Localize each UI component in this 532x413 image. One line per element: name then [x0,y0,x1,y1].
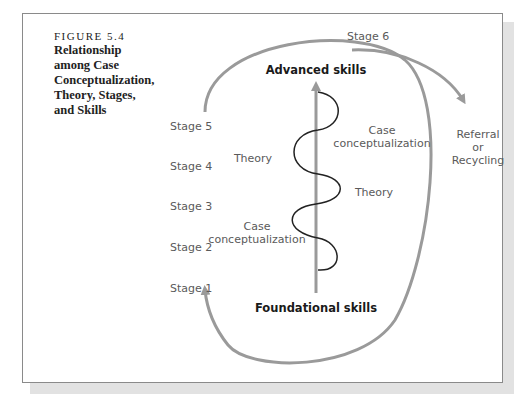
case-conceptualization-lower-line1: Case [244,220,271,233]
referral-label-line3: Recycling [452,154,505,167]
referral-arrow [352,50,463,100]
referral-label-line2: or [472,141,484,154]
referral-label-line1: Referral [456,128,499,141]
case-conceptualization-lower-line2: conceptualization [208,233,305,246]
stage-4-label: Stage 4 [170,160,212,173]
stage-6-label: Stage 6 [347,30,389,43]
theory-right-label: Theory [354,186,394,199]
advanced-skills-label: Advanced skills [266,63,367,77]
stage-1-label: Stage 1 [170,282,212,295]
stage-3-label: Stage 3 [170,200,212,213]
foundational-skills-label: Foundational skills [255,301,377,315]
diagram-canvas: Stage 6 Stage 5 Stage 4 Stage 3 Stage 2 … [0,0,532,413]
stage-5-label: Stage 5 [170,120,212,133]
case-conceptualization-upper-line1: Case [369,124,396,137]
stage-2-label: Stage 2 [170,241,212,254]
case-conceptualization-upper-line2: conceptualization [333,137,430,150]
theory-left-label: Theory [233,152,273,165]
